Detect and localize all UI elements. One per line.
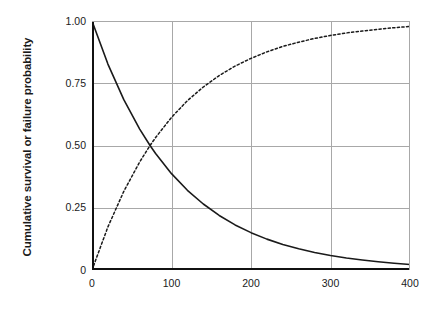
x-tick-label-3: 200 bbox=[231, 278, 271, 289]
x-tick-label-5: 400 bbox=[390, 278, 430, 289]
x-tick-label-1: 0 bbox=[72, 278, 112, 289]
chart-svg bbox=[92, 21, 410, 270]
x-tick-label-2: 100 bbox=[152, 278, 192, 289]
chart-figure: Cumulative survival or failure probabili… bbox=[0, 0, 432, 334]
plot-area bbox=[92, 21, 410, 270]
x-tick-label-4: 300 bbox=[311, 278, 351, 289]
